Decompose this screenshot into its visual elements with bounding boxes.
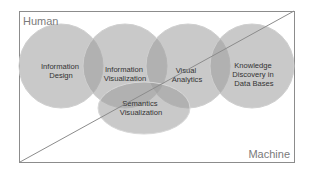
label-machine: Machine — [248, 148, 290, 160]
circle-label-information-visualization: Information Visualization — [104, 65, 147, 83]
label-human: Human — [23, 15, 58, 27]
ellipse-semantics-visualization: Semantics Visualization — [98, 82, 190, 134]
diagram-canvas: Information Design Information Visualiza… — [0, 0, 309, 174]
circle-label-knowledge-discovery: Knowledge Discovery in Data Bases — [232, 61, 275, 88]
circle-knowledge-discovery: Knowledge Discovery in Data Bases — [210, 24, 294, 108]
circle-label-visual-analytics: Visual Analytics — [172, 66, 203, 84]
ellipse-label-semantics-visualization: Semantics Visualization — [120, 99, 163, 117]
